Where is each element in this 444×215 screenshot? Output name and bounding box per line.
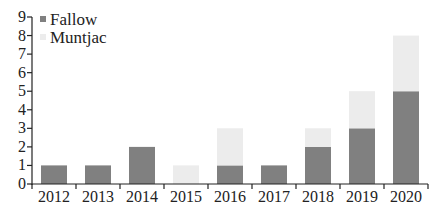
x-tick-label: 2012	[38, 188, 70, 205]
x-tick-label: 2013	[82, 188, 114, 205]
bar-muntjac-2015	[173, 165, 199, 184]
bar-muntjac-2019	[349, 91, 375, 128]
bar-fallow-2013	[85, 165, 111, 184]
y-tick-label: 9	[18, 8, 26, 25]
y-tick-label: 6	[18, 64, 26, 81]
legend-label-muntjac: Muntjac	[50, 28, 107, 47]
y-tick-label: 5	[18, 82, 26, 99]
y-tick-label: 3	[18, 119, 26, 136]
x-tick-label: 2016	[214, 188, 246, 205]
bar-fallow-2018	[305, 147, 331, 184]
x-tick-label: 2018	[302, 188, 334, 205]
y-tick-label: 4	[18, 101, 26, 118]
bar-muntjac-2016	[217, 128, 243, 165]
bar-fallow-2019	[349, 128, 375, 184]
bar-fallow-2014	[129, 147, 155, 184]
legend-label-fallow: Fallow	[50, 10, 98, 29]
y-tick-label: 2	[18, 138, 26, 155]
bar-fallow-2017	[261, 165, 287, 184]
y-tick-label: 7	[18, 45, 26, 62]
bar-fallow-2020	[393, 91, 419, 184]
bar-fallow-2012	[41, 165, 67, 184]
legend: FallowMuntjac	[40, 10, 107, 47]
x-tick-label: 2019	[346, 188, 378, 205]
x-tick-label: 2015	[170, 188, 202, 205]
bar-muntjac-2020	[393, 36, 419, 92]
x-tick-label: 2020	[390, 188, 422, 205]
x-tick-label: 2014	[126, 188, 158, 205]
bars-group	[41, 36, 419, 184]
y-tick-label: 8	[18, 27, 26, 44]
legend-swatch-muntjac	[40, 34, 46, 40]
x-tick-label: 2017	[258, 188, 290, 205]
stacked-bar-chart: 0123456789201220132014201520162017201820…	[0, 0, 444, 215]
legend-swatch-fallow	[40, 16, 46, 22]
y-tick-label: 0	[18, 175, 26, 192]
bar-muntjac-2018	[305, 128, 331, 147]
bar-fallow-2016	[217, 165, 243, 184]
y-tick-label: 1	[18, 156, 26, 173]
